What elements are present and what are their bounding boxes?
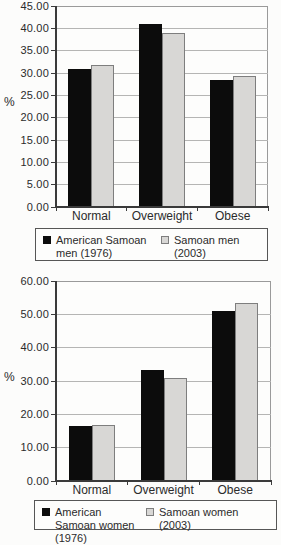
men-y-tick-label: 5.00	[7, 178, 49, 191]
women-y-axis-title: %	[4, 371, 15, 384]
women-x-axis-line	[55, 480, 272, 482]
women-bar-overweight-series0	[141, 370, 164, 481]
women-y-tick-label: 60.00	[7, 275, 49, 288]
men-bar-overweight-series1	[162, 33, 185, 207]
men-bar-obese-series1	[233, 76, 256, 207]
women-y-tick-label: 10.00	[7, 441, 49, 454]
men-y-tick-label: 35.00	[7, 44, 49, 57]
men-y-tick-label: 10.00	[7, 156, 49, 169]
women-y-tick-label: 0.00	[7, 475, 49, 488]
women-y-tick-label: 40.00	[7, 341, 49, 354]
women-legend-item-0: American Samoan women (1976)	[42, 506, 139, 528]
women-legend-item-1: Samoan women (2003)	[146, 506, 272, 528]
men-bar-normal-series1	[91, 65, 114, 207]
women-legend-label-0: American Samoan women (1976)	[55, 506, 139, 545]
women-bar-normal-series0	[69, 426, 92, 481]
men-y-axis-line	[55, 6, 57, 208]
women-legend-label-1: Samoan women (2003)	[159, 506, 272, 532]
men-y-tick-label: 40.00	[7, 22, 49, 35]
women-category-label-obese: Obese	[193, 484, 277, 497]
women-y-tick-label: 50.00	[7, 308, 49, 321]
men-legend-label-1: Samoan men (2003)	[174, 234, 263, 260]
women-legend-swatch-1	[146, 508, 154, 516]
men-legend-item-1: Samoan men (2003)	[161, 234, 263, 259]
men-y-tick-label: 15.00	[7, 134, 49, 147]
women-legend: American Samoan women (1976)Samoan women…	[34, 500, 277, 530]
men-x-axis-line	[55, 206, 269, 208]
men-bar-obese-series0	[210, 80, 233, 207]
men-legend-item-0: American Samoan men (1976)	[43, 234, 154, 259]
men-obesity-chart: 45.0040.0035.0030.0025.0020.0015.0010.00…	[0, 0, 281, 271]
men-legend-swatch-1	[161, 236, 169, 244]
men-bar-normal-series0	[68, 69, 91, 207]
men-gridline	[56, 28, 268, 29]
men-y-tick-label: 20.00	[7, 111, 49, 124]
men-legend-swatch-0	[43, 236, 51, 244]
women-obesity-chart: 60.0050.0040.0030.0020.0010.000.00Normal…	[0, 271, 281, 542]
men-bar-overweight-series0	[139, 24, 162, 207]
women-bar-obese-series1	[235, 303, 258, 481]
men-category-label-obese: Obese	[191, 210, 275, 223]
women-bar-obese-series0	[212, 311, 235, 481]
men-y-tick-label: 30.00	[7, 67, 49, 80]
men-y-tick-label: 0.00	[7, 201, 49, 214]
men-legend: American Samoan men (1976)Samoan men (20…	[35, 228, 268, 261]
women-bar-normal-series1	[92, 425, 115, 481]
men-legend-label-0: American Samoan men (1976)	[56, 234, 154, 260]
men-y-tick-label: 45.00	[7, 0, 49, 13]
men-y-axis-title: %	[4, 96, 15, 109]
women-legend-swatch-0	[42, 508, 50, 516]
women-y-axis-line	[55, 281, 57, 482]
women-bar-overweight-series1	[164, 378, 187, 481]
women-y-tick-label: 20.00	[7, 408, 49, 421]
